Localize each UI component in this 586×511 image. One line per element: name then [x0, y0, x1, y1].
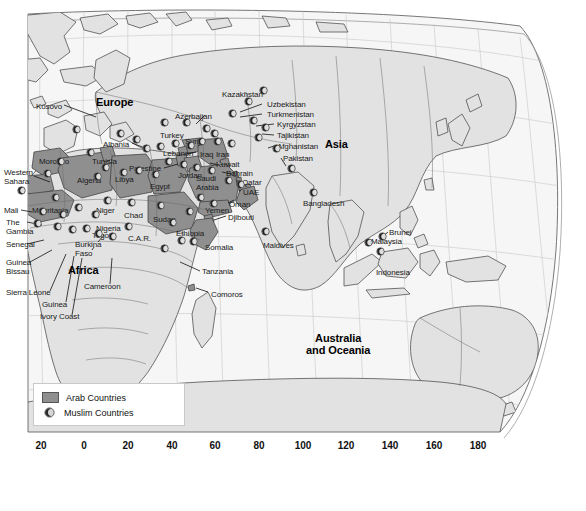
- axis-tick-label: 0: [81, 440, 87, 451]
- muslim-country-crescent-icon: [254, 133, 263, 142]
- muslim-country-crescent-icon: [249, 116, 258, 125]
- country-label-bangladesh: Bangladesh: [303, 199, 344, 208]
- country-label-uzbekistan: Uzbekistan: [267, 100, 306, 109]
- muslim-country-crescent-icon: [164, 157, 173, 166]
- country-label-iran: Iran: [216, 150, 229, 159]
- continent-label-europe: Europe: [96, 98, 133, 107]
- country-label-brunei: Brunei: [389, 228, 412, 237]
- axis-tick-label: 80: [253, 440, 264, 451]
- country-label-kosovo: Kosovo: [36, 102, 62, 111]
- muslim-country-crescent-icon: [179, 160, 188, 169]
- country-label-the-gambia: TheGambia: [6, 218, 33, 236]
- muslim-country-crescent-icon: [227, 139, 236, 148]
- muslim-country-crescent-icon: [43, 169, 52, 178]
- continent-label-line2: and Oceania: [306, 344, 370, 356]
- label-line-1: The: [6, 218, 33, 227]
- muslim-country-crescent-icon: [142, 144, 151, 153]
- axis-tick-label: 160: [426, 440, 443, 451]
- country-label-tanzania: Tanzania: [202, 267, 233, 276]
- country-label-djibouti: Djibouti: [228, 213, 254, 222]
- muslim-country-crescent-icon: [228, 109, 237, 118]
- axis-tick-label: 140: [382, 440, 399, 451]
- muslim-country-crescent-icon: [72, 125, 81, 134]
- legend-label-arab: Arab Countries: [66, 393, 126, 403]
- muslim-country-crescent-icon: [74, 203, 83, 212]
- muslim-country-crescent-icon: [196, 193, 205, 202]
- map-legend: Arab Countries Muslim Countries: [33, 383, 185, 426]
- longitude-axis: 20020406080100120140160180: [0, 440, 586, 458]
- country-label-cameroon: Cameroon: [84, 282, 121, 291]
- muslim-country-crescent-icon: [51, 193, 60, 202]
- country-label-somalia: Somalia: [205, 243, 233, 252]
- muslim-country-crescent-icon: [209, 199, 218, 208]
- muslim-country-crescent-icon: [186, 141, 195, 150]
- muslim-country-crescent-icon: [17, 186, 26, 195]
- muslim-country-crescent-icon: [156, 201, 165, 210]
- axis-tick-label: 60: [209, 440, 220, 451]
- muslim-country-crescent-icon: [364, 238, 373, 247]
- country-label-c-a-r: C.A.R.: [128, 234, 151, 243]
- axis-tick-label: 40: [166, 440, 177, 451]
- legend-item-arab: Arab Countries: [42, 390, 176, 405]
- muslim-country-crescent-icon: [171, 139, 180, 148]
- muslim-country-crescent-icon: [56, 157, 65, 166]
- country-label-kazakhstan: Kazakhstan: [222, 90, 263, 99]
- muslim-country-crescent-icon: [116, 129, 125, 138]
- muslim-country-crescent-icon: [68, 225, 77, 234]
- muslim-country-crescent-icon: [376, 247, 385, 256]
- muslim-country-crescent-icon: [127, 198, 136, 207]
- continent-label-australia-oceania: Australia and Oceania: [306, 332, 370, 356]
- country-label-azerbaijan: Azerbaijan: [175, 112, 212, 121]
- label-line-2: Sahara: [4, 177, 33, 186]
- axis-tick-label: 180: [470, 440, 487, 451]
- muslim-country-crescent-icon: [244, 97, 253, 106]
- country-label-chad: Chad: [124, 211, 143, 220]
- muslim-country-crescent-icon: [185, 207, 194, 216]
- axis-tick-label: 120: [338, 440, 355, 451]
- country-label-tajikistan: Tajikistan: [277, 131, 309, 140]
- muslim-country-crescent-icon: [182, 118, 191, 127]
- muslim-country-crescent-icon: [58, 210, 67, 219]
- muslim-country-crescent-icon: [119, 168, 128, 177]
- muslim-country-crescent-icon: [156, 142, 165, 151]
- muslim-country-crescent-icon: [86, 148, 95, 157]
- muslim-country-crescent-icon: [261, 227, 270, 236]
- country-label-guinea-bissau: GuineaBissau: [6, 258, 31, 276]
- axis-tick-label: 100: [295, 440, 312, 451]
- country-label-egypt: Egypt: [150, 182, 170, 191]
- muslim-country-crescent-icon: [192, 163, 201, 172]
- muslim-country-crescent-icon: [132, 135, 141, 144]
- label-line-1: Guinea: [6, 258, 31, 267]
- crescent-moon-icon: [42, 407, 57, 418]
- arab-color-swatch: [42, 392, 59, 403]
- country-label-oman: Oman: [229, 200, 250, 209]
- muslim-country-crescent-icon: [94, 229, 103, 238]
- country-label-burkina-faso: BurkinaFaso: [75, 240, 101, 258]
- muslim-country-crescent-icon: [103, 196, 112, 205]
- country-label-saudi-arabia: SaudiArabia: [196, 174, 219, 192]
- country-label-indonesia: Indonesia: [376, 268, 410, 277]
- country-label-iraq: Iraq: [200, 150, 213, 159]
- axis-tick-label: 20: [122, 440, 133, 451]
- muslim-country-crescent-icon: [189, 237, 198, 246]
- country-label-uae: UAE: [243, 188, 259, 197]
- muslim-country-crescent-icon: [33, 219, 42, 228]
- muslim-country-crescent-icon: [134, 166, 143, 175]
- muslim-country-crescent-icon: [93, 172, 102, 181]
- muslim-country-crescent-icon: [378, 232, 387, 241]
- country-label-kuwait: Kuwait: [216, 160, 239, 169]
- muslim-country-crescent-icon: [197, 137, 206, 146]
- country-label-pakistan: Pakistan: [283, 154, 313, 163]
- country-label-western-sahara: WesternSahara: [4, 168, 33, 186]
- label-line-1: Western: [4, 168, 33, 177]
- muslim-country-crescent-icon: [53, 222, 62, 231]
- muslim-country-crescent-icon: [272, 144, 281, 153]
- country-label-senegal: Senegal: [6, 240, 35, 249]
- muslim-country-crescent-icon: [160, 244, 169, 253]
- muslim-country-crescent-icon: [124, 222, 133, 231]
- muslim-country-crescent-icon: [91, 210, 100, 219]
- axis-tick-label: 20: [35, 440, 46, 451]
- country-label-comoros: Comoros: [211, 290, 243, 299]
- legend-label-muslim: Muslim Countries: [64, 408, 134, 418]
- country-label-sierra-leone: Sierra Leone: [6, 288, 51, 297]
